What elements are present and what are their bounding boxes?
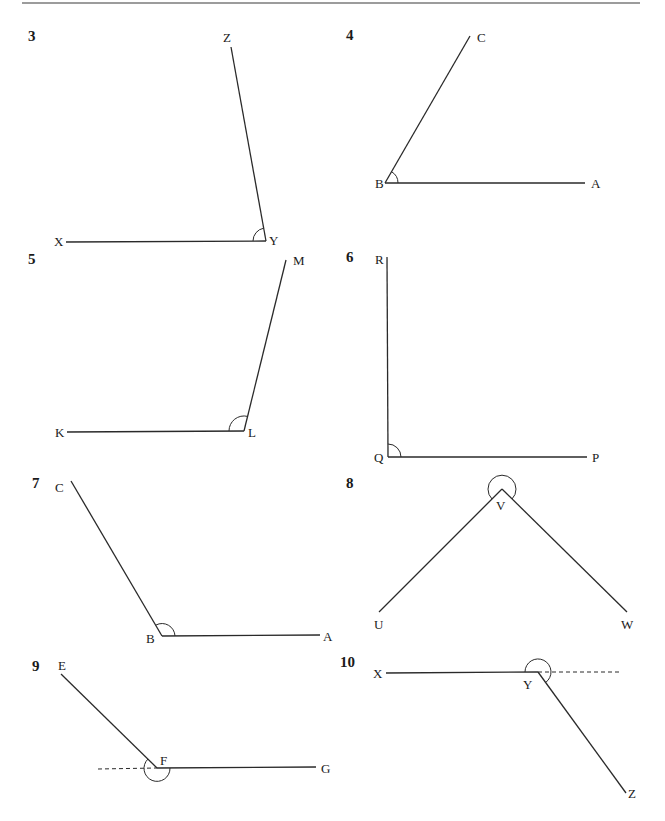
point-label: Z (223, 30, 231, 45)
point-label: U (374, 617, 384, 632)
problem-7: 7 C B A (32, 475, 333, 646)
point-label: E (58, 658, 66, 673)
ray-lm (244, 260, 286, 431)
problem-number: 7 (32, 475, 40, 491)
problem-number: 4 (346, 27, 354, 43)
problem-number: 5 (28, 251, 36, 267)
angle-arc (392, 172, 399, 183)
vertex-label: B (375, 176, 384, 191)
vertex-label: F (160, 753, 167, 768)
problem-9: 9 E F G (32, 658, 330, 781)
ray-qr (387, 257, 388, 457)
angle-arc (488, 475, 516, 499)
problem-number: 3 (28, 28, 36, 44)
ray-ba (162, 635, 320, 636)
vertex-label: Y (523, 677, 533, 692)
point-label: W (621, 617, 634, 632)
vertex-label: L (248, 425, 256, 440)
point-label: R (375, 252, 384, 267)
point-label: K (55, 425, 65, 440)
angles-worksheet: 3 Z Y X 4 C B A 5 M L K 6 R Q P 7 (0, 0, 665, 821)
extension-dashed (98, 768, 157, 769)
ray-yx (386, 672, 538, 673)
problem-10: 10 X Y Z (340, 654, 636, 801)
problem-5: 5 M L K (28, 251, 305, 440)
point-label: X (54, 234, 64, 249)
vertex-label: Q (374, 450, 384, 465)
problem-8: 8 V U W (346, 475, 634, 632)
angle-arc (388, 444, 401, 457)
ray-vw (502, 489, 627, 612)
point-label: C (55, 480, 64, 495)
problem-4: 4 C B A (346, 27, 601, 191)
point-label: G (321, 761, 330, 776)
ray-lk (67, 431, 244, 432)
ray-fe (61, 674, 157, 768)
ray-fg (157, 767, 316, 768)
point-label: A (591, 176, 601, 191)
ray-bc (71, 481, 162, 636)
point-label: P (592, 450, 599, 465)
ray-bc (385, 36, 470, 183)
ray-yz (231, 47, 266, 241)
vertex-label: Y (269, 233, 279, 248)
point-label: M (293, 253, 305, 268)
point-label: A (323, 629, 333, 644)
point-label: X (373, 666, 383, 681)
ray-vu (379, 489, 502, 612)
problem-3: 3 Z Y X (28, 28, 279, 249)
problem-6: 6 R Q P (346, 249, 599, 465)
vertex-label: B (146, 631, 155, 646)
vertex-label: V (496, 498, 506, 513)
problem-number: 8 (346, 475, 354, 491)
ray-yx (66, 241, 266, 242)
problem-number: 10 (340, 654, 355, 670)
point-label: Z (628, 786, 636, 801)
problem-number: 6 (346, 249, 354, 265)
problem-number: 9 (32, 658, 40, 674)
angle-arc (253, 228, 264, 241)
ray-yz (538, 672, 626, 793)
point-label: C (477, 30, 486, 45)
